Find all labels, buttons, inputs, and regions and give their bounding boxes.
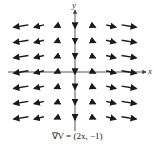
vector-arrow-icon <box>34 101 44 103</box>
vector-field-diagram <box>0 0 154 144</box>
vector-arrow-icon <box>14 40 29 42</box>
vector-arrow-icon <box>122 56 137 58</box>
vector-arrow-icon <box>106 86 116 88</box>
vector-arrow-icon <box>34 117 44 119</box>
vector-arrow-icon <box>55 101 60 103</box>
vector-arrow-icon <box>34 40 44 42</box>
vector-arrow-icon <box>122 40 137 42</box>
vector-arrow-icon <box>106 40 116 42</box>
figure-caption: ∇V = (2x, −1) <box>0 131 154 141</box>
vector-arrow-icon <box>91 25 96 27</box>
vector-arrow-icon <box>122 101 137 103</box>
vector-arrow-icon <box>55 56 60 58</box>
vector-arrow-icon <box>91 40 96 42</box>
vector-arrow-icon <box>55 25 60 27</box>
vector-arrow-icon <box>14 56 29 58</box>
vector-arrow-icon <box>91 56 96 58</box>
vector-arrow-icon <box>34 86 44 88</box>
vector-arrow-icon <box>14 101 29 103</box>
vector-arrow-icon <box>106 117 116 119</box>
vector-arrow-icon <box>122 86 137 88</box>
vector-arrow-icon <box>55 40 60 42</box>
vector-arrow-icon <box>122 25 137 27</box>
vector-arrow-icon <box>14 117 29 119</box>
vector-arrow-icon <box>122 117 137 119</box>
vector-arrow-icon <box>14 25 29 27</box>
vector-arrow-icon <box>55 86 60 88</box>
vector-arrow-icon <box>106 25 116 27</box>
vector-arrow-icon <box>91 101 96 103</box>
vector-arrow-icon <box>91 117 96 119</box>
vector-arrow-icon <box>55 117 60 119</box>
vector-arrow-icon <box>106 56 116 58</box>
x-axis-label: x <box>148 67 152 76</box>
vector-arrow-icon <box>34 56 44 58</box>
y-axis-label: y <box>72 1 76 10</box>
vector-arrow-icon <box>106 101 116 103</box>
vector-arrow-icon <box>14 86 29 88</box>
vector-arrow-icon <box>91 86 96 88</box>
vector-arrow-icon <box>34 25 44 27</box>
